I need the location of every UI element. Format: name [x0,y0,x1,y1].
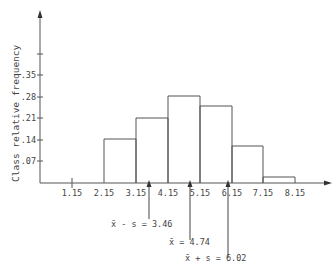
bar-3.15-4.15 [136,118,168,183]
x-ticks: 1.15 2.15 3.15 4.15 5.15 6.15 7.15 8.15 [62,178,305,198]
x-tick-label: 5.15 [190,188,210,198]
x-tick-label: 4.15 [158,188,178,198]
histogram-chart: Class relative frequency .07 .14 .21 .28… [0,0,336,274]
x-axis-arrow-icon [324,181,332,186]
annotation-mean-minus-sd: x̄ - s = 3.46 [111,219,172,229]
bar-7.15-8.15 [263,177,295,183]
bar-6.15-7.15 [232,146,263,183]
histogram-bars [104,96,295,183]
bar-4.15-5.15 [168,96,200,183]
y-tick-label: .28 [21,92,36,102]
x-tick-label: 6.15 [222,188,242,198]
y-tick-label: .07 [21,156,36,166]
y-axis-arrow-icon [38,10,43,18]
bar-5.15-6.15 [200,106,232,183]
x-tick-label: 8.15 [285,188,305,198]
x-tick-label: 2.15 [94,188,114,198]
x-tick-label: 3.15 [126,188,146,198]
y-axis-label: Class relative frequency [10,44,21,182]
bar-2.15-3.15 [104,139,136,183]
x-tick-label: 1.15 [62,188,82,198]
y-tick-label: .21 [21,113,36,123]
annotation-mean-plus-sd: x̄ + s = 6.02 [185,253,246,263]
y-tick-label: .35 [21,70,36,80]
annotation-mean: x̄ = 4.74 [169,237,210,247]
x-tick-label: 7.15 [253,188,273,198]
y-tick-label: .14 [21,135,36,145]
